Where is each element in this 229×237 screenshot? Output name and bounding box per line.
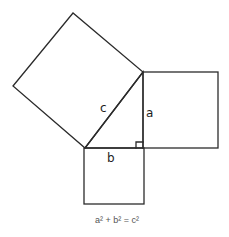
label-b: b — [107, 151, 115, 165]
label-c: c — [100, 101, 107, 115]
formula-caption: a² + b² = c² — [95, 215, 139, 225]
right-triangle — [85, 72, 143, 148]
square-on-hypotenuse-c — [13, 13, 143, 148]
pythagorean-diagram: c a b a² + b² = c² — [0, 0, 229, 237]
label-a: a — [146, 106, 153, 120]
right-angle-marker — [136, 142, 143, 148]
square-on-leg-a — [143, 72, 218, 148]
